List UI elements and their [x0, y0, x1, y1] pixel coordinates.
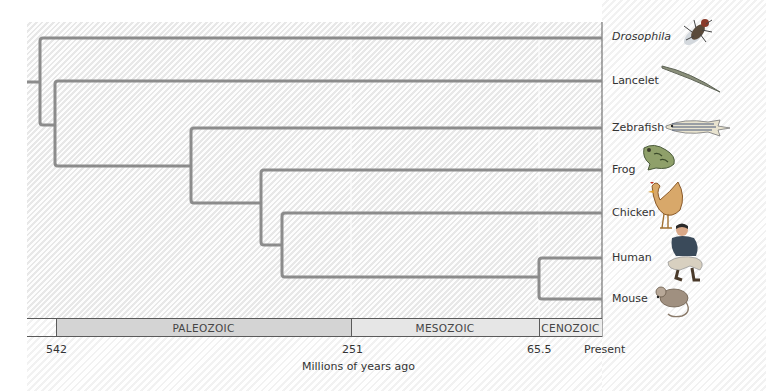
mouse-icon	[652, 282, 694, 320]
taxon-label-drosophila: Drosophila	[612, 30, 671, 43]
node-chordata	[55, 81, 602, 166]
era-mesozoic: MESOZOIC	[351, 318, 539, 337]
tick-251	[351, 318, 352, 337]
node-vertebrata	[191, 128, 602, 203]
taxon-label-lancelet: Lancelet	[612, 74, 659, 87]
frog-icon	[640, 142, 678, 172]
era-precambrian-segment	[27, 318, 56, 337]
taxon-label-mouse: Mouse	[612, 292, 648, 305]
node-amniota	[282, 213, 602, 277]
taxon-label-human: Human	[612, 251, 652, 264]
tick-label-542: 542	[46, 343, 67, 356]
node-mammalia	[539, 258, 602, 299]
taxon-label-frog: Frog	[612, 163, 636, 176]
zebrafish-icon	[664, 116, 732, 140]
tick-label-65: 65.5	[527, 343, 552, 356]
taxon-label-zebrafish: Zebrafish	[612, 121, 664, 134]
node-tetrapoda	[261, 170, 602, 245]
axis-title: Millions of years ago	[302, 360, 415, 373]
lancelet-icon	[660, 62, 722, 94]
tick-65	[539, 318, 540, 337]
era-paleozoic: PALEOZOIC	[56, 318, 351, 337]
era-cenozoic: CENOZOIC	[539, 318, 602, 337]
tick-542	[56, 318, 57, 337]
tick-label-present: Present	[584, 343, 625, 356]
human-icon	[666, 222, 710, 286]
fruit-fly-icon	[672, 12, 720, 52]
tick-label-251: 251	[342, 343, 363, 356]
